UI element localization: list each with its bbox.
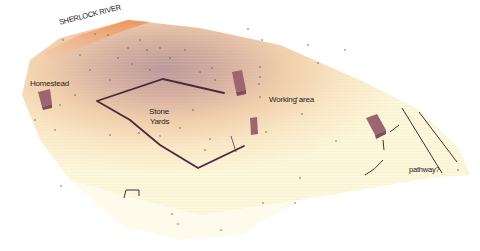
working-area-label: Working area (269, 95, 314, 104)
pathway-label: pathway? (409, 165, 440, 174)
homestead-label: Homestead (30, 79, 69, 88)
working-area-building-2 (250, 117, 258, 135)
stone-yards-label-line2: Yards (150, 117, 169, 126)
terrain-map (0, 0, 480, 251)
stone-yards-label-line1: Stone (149, 107, 169, 116)
